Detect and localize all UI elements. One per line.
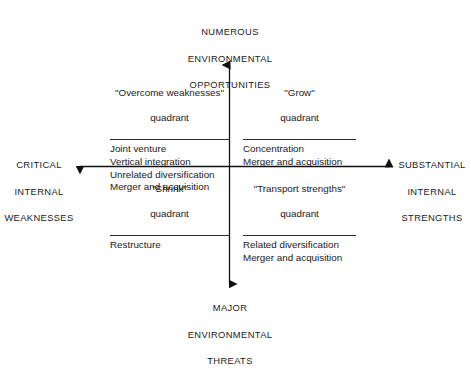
axis-label-bottom: MAJOR ENVIRONMENTAL THREATS xyxy=(164,288,296,368)
axis-label-left: CRITICAL INTERNAL WEAKNESSES xyxy=(2,145,76,237)
axis-label-left-line1: CRITICAL xyxy=(2,158,76,171)
quadrant-title-line1: "Shrink" xyxy=(110,183,229,196)
axis-label-right-line1: SUBSTANTIAL xyxy=(394,158,470,171)
axis-label-top-line1: NUMEROUS xyxy=(160,25,300,38)
axis-label-right-line2: INTERNAL xyxy=(394,185,470,198)
axis-label-bottom-line1: MAJOR xyxy=(164,301,296,314)
list-item: Related diversification xyxy=(243,239,356,252)
quadrant-title-line2: quadrant xyxy=(243,208,356,221)
list-item: Merger and acquisition xyxy=(243,252,356,265)
quadrant-divider xyxy=(243,235,356,236)
list-item: Restructure xyxy=(110,239,229,252)
quadrant-strategy-list: Restructure xyxy=(110,239,229,252)
quadrant-title-line1: "Overcome weaknesses" xyxy=(110,87,229,100)
quadrant-title: "Transport strengths" quadrant xyxy=(243,170,356,233)
quadrant-grow: "Grow" quadrant Concentration Merger and… xyxy=(243,74,356,169)
quadrant-divider xyxy=(110,235,229,236)
axis-label-bottom-line2: ENVIRONMENTAL xyxy=(164,328,296,341)
list-item: Vertical integration xyxy=(110,156,229,169)
quadrant-title-line1: "Transport strengths" xyxy=(243,183,356,196)
quadrant-transport-strengths: "Transport strengths" quadrant Related d… xyxy=(243,170,356,265)
quadrant-title-line1: "Grow" xyxy=(243,87,356,100)
quadrant-title: "Overcome weaknesses" quadrant xyxy=(110,74,229,137)
list-item: Merger and acquisition xyxy=(243,156,356,169)
axis-label-right-line3: STRENGTHS xyxy=(394,211,470,224)
quadrant-title: "Grow" quadrant xyxy=(243,74,356,137)
quadrant-title: "Shrink" quadrant xyxy=(110,170,229,233)
quadrant-title-line2: quadrant xyxy=(110,112,229,125)
list-item: Concentration xyxy=(243,143,356,156)
axis-label-right: SUBSTANTIAL INTERNAL STRENGTHS xyxy=(394,145,470,237)
quadrant-shrink: "Shrink" quadrant Restructure xyxy=(110,170,229,252)
quadrant-strategy-list: Related diversification Merger and acqui… xyxy=(243,239,356,265)
list-item: Joint venture xyxy=(110,143,229,156)
quadrant-title-line2: quadrant xyxy=(110,208,229,221)
axis-label-left-line3: WEAKNESSES xyxy=(2,211,76,224)
quadrant-divider xyxy=(243,139,356,140)
quadrant-title-line2: quadrant xyxy=(243,112,356,125)
axis-label-top-line2: ENVIRONMENTAL xyxy=(160,52,300,65)
quadrant-divider xyxy=(110,139,229,140)
quadrant-strategy-list: Concentration Merger and acquisition xyxy=(243,143,356,169)
axis-label-left-line2: INTERNAL xyxy=(2,185,76,198)
axis-label-bottom-line3: THREATS xyxy=(164,354,296,367)
